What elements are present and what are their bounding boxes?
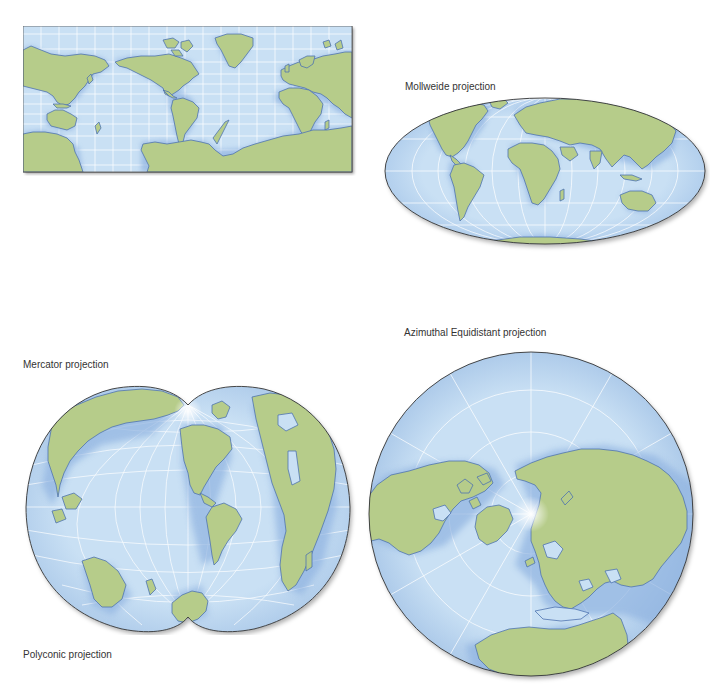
azimuthal-caption: Azimuthal Equidistant projection <box>404 327 546 338</box>
polyconic-map <box>22 385 362 635</box>
mercator-caption: Mercator projection <box>23 359 109 370</box>
mollweide-map <box>380 95 710 255</box>
polyconic-caption: Polyconic projection <box>23 649 112 660</box>
mercator-map-visual <box>23 26 357 176</box>
azimuthal-map <box>365 345 705 690</box>
mollweide-caption: Mollweide projection <box>405 81 496 92</box>
